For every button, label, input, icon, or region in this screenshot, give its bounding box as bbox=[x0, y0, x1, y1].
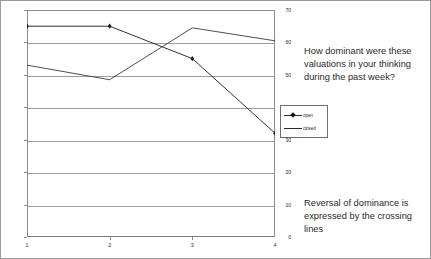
legend-label-open: open bbox=[303, 113, 313, 119]
x-tick-mark bbox=[110, 237, 111, 240]
legend-label-closed: closed bbox=[303, 126, 316, 132]
legend-marker-line-icon bbox=[283, 124, 303, 134]
x-tick-label: 1 bbox=[18, 242, 36, 249]
data-point-marker bbox=[27, 24, 29, 29]
data-point-marker bbox=[108, 24, 112, 29]
y-tick-mark bbox=[24, 237, 27, 238]
x-tick-label: 3 bbox=[183, 242, 201, 249]
data-point-marker bbox=[190, 56, 194, 61]
x-tick-label: 2 bbox=[101, 242, 119, 249]
x-tick-mark bbox=[192, 237, 193, 240]
chart-page: 706050403020100 1234 open closed How dom… bbox=[0, 0, 431, 259]
legend-item-open: open bbox=[283, 109, 325, 122]
x-tick-label: 4 bbox=[266, 242, 284, 249]
legend-item-closed: closed bbox=[283, 122, 325, 135]
series-line-closed bbox=[27, 28, 275, 80]
series-layer bbox=[27, 10, 275, 237]
chart-region: 706050403020100 1234 bbox=[1, 1, 291, 259]
chart-legend: open closed bbox=[280, 105, 328, 138]
series-line-open bbox=[27, 26, 275, 133]
legend-marker-diamond-icon bbox=[283, 111, 303, 121]
annotation-note: Reversal of dominance is expressed by th… bbox=[304, 197, 428, 237]
annotation-question: How dominant were these valuations in yo… bbox=[304, 45, 428, 85]
